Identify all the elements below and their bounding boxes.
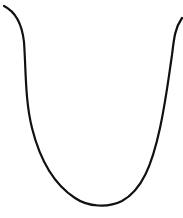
u-curve-diagram xyxy=(0,0,183,218)
figure-canvas xyxy=(0,0,183,218)
u-shaped-curve xyxy=(4,6,182,206)
